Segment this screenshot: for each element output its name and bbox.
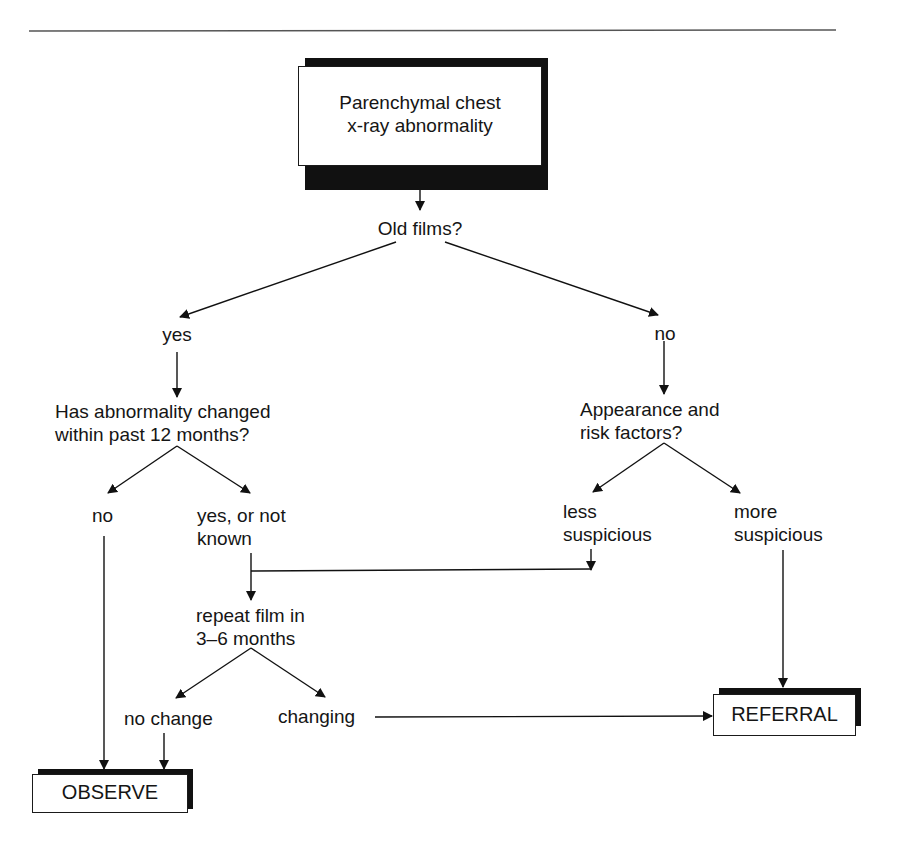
top-rule (29, 30, 836, 31)
question-old-films: Old films? (340, 217, 500, 240)
question-appearance: Appearance and risk factors? (580, 398, 719, 444)
appearance-line-1: Appearance and (580, 398, 719, 421)
less-line-1: less (563, 500, 652, 523)
start-line-2: x-ray abnormality (298, 114, 542, 137)
changed-yes-line-2: known (197, 527, 286, 550)
more-line-2: suspicious (734, 523, 823, 546)
appearance-line-2: risk factors? (580, 421, 719, 444)
answer-yes: yes (147, 323, 207, 346)
changed-line-1: Has abnormality changed (55, 400, 270, 423)
answer-changed-no: no (92, 504, 113, 527)
answer-less-suspicious: less suspicious (563, 500, 652, 546)
arrow-changed-to-no (108, 446, 177, 493)
answer-more-suspicious: more suspicious (734, 500, 823, 546)
step-repeat-film: repeat film in 3–6 months (196, 604, 305, 650)
arrow-appearance-to-less (593, 443, 664, 492)
answer-changed-yes: yes, or not known (197, 504, 286, 550)
more-line-1: more (734, 500, 823, 523)
start-box-label: Parenchymal chest x-ray abnormality (298, 91, 542, 137)
connector-less-to-repeat (251, 569, 591, 571)
observe-label: OBSERVE (32, 781, 188, 804)
arrow-oldfilms-to-no (445, 242, 658, 315)
changed-line-2: within past 12 months? (55, 423, 270, 446)
less-line-2: suspicious (563, 523, 652, 546)
answer-no: no (640, 322, 690, 345)
start-line-1: Parenchymal chest (298, 91, 542, 114)
repeat-line-2: 3–6 months (196, 627, 305, 650)
arrow-changing-to-referral (375, 716, 712, 717)
arrow-repeat-to-changing (251, 648, 325, 697)
changed-yes-line-1: yes, or not (197, 504, 286, 527)
referral-label: REFERRAL (713, 703, 856, 726)
answer-changing: changing (278, 705, 355, 728)
arrow-repeat-to-nochange (176, 648, 251, 698)
question-changed: Has abnormality changed within past 12 m… (55, 400, 270, 446)
answer-no-change: no change (124, 707, 213, 730)
repeat-line-1: repeat film in (196, 604, 305, 627)
arrow-oldfilms-to-yes (180, 242, 396, 317)
arrow-appearance-to-more (664, 443, 740, 493)
arrow-changed-to-yesnotknown (177, 446, 250, 493)
